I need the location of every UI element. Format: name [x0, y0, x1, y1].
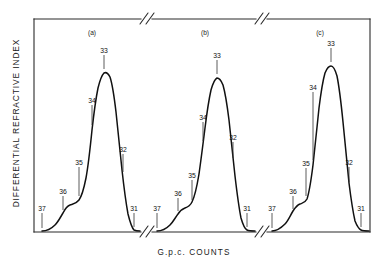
count-label-c-34: 34: [304, 84, 322, 91]
panel-tag-c: (c): [309, 29, 331, 36]
count-label-a-33: 33: [95, 47, 113, 54]
count-label-c-33: 33: [322, 40, 340, 47]
count-label-c-31: 31: [352, 205, 370, 212]
count-label-a-31: 31: [125, 205, 143, 212]
panel-tag-b: (b): [194, 29, 216, 36]
count-label-a-36: 36: [54, 188, 72, 195]
count-label-b-31: 31: [238, 205, 256, 212]
count-label-b-36: 36: [169, 190, 187, 197]
count-label-b-32: 32: [224, 134, 242, 141]
count-label-b-34: 34: [194, 114, 212, 121]
count-label-c-36: 36: [284, 188, 302, 195]
count-label-b-37: 37: [148, 205, 166, 212]
count-label-a-32: 32: [114, 146, 132, 153]
gpc-chromatogram-figure: DIFFERENTIAL REFRACTIVE INDEX G.p.c. COU…: [0, 0, 388, 272]
panel-tag-a: (a): [81, 29, 103, 36]
axis-break-marks: [140, 13, 269, 237]
count-label-b-33: 33: [208, 52, 226, 59]
axis-frame: [34, 19, 370, 232]
x-axis-label: G.p.c. COUNTS: [0, 248, 388, 257]
y-axis-label: DIFFERENTIAL REFRACTIVE INDEX: [11, 33, 21, 213]
count-label-a-37: 37: [33, 205, 51, 212]
leader-lines-panel-a: [42, 55, 134, 228]
leader-lines-panel-b: [157, 60, 247, 228]
count-label-b-35: 35: [183, 172, 201, 179]
count-label-c-35: 35: [297, 160, 315, 167]
count-label-c-32: 32: [340, 159, 358, 166]
count-label-a-34: 34: [83, 97, 101, 104]
count-label-c-37: 37: [263, 205, 281, 212]
count-label-a-35: 35: [70, 159, 88, 166]
